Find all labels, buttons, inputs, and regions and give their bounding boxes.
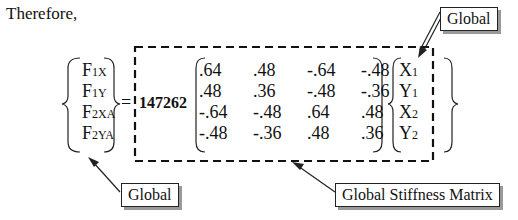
equals-sign: = bbox=[121, 92, 131, 113]
arrow-global-bottom bbox=[88, 157, 99, 167]
force-entry: F2YA bbox=[82, 123, 115, 144]
disp-brace-close bbox=[444, 58, 458, 152]
matrix-row: .64.48-.64-.48 bbox=[199, 60, 415, 81]
left-brace-open bbox=[62, 58, 80, 152]
disp-entry: Y2 bbox=[399, 123, 418, 144]
force-entry: F2XA bbox=[82, 102, 115, 123]
callout-global-top: Global bbox=[440, 7, 498, 31]
disp-entry: X1 bbox=[399, 60, 418, 81]
force-entry: F1Y bbox=[82, 81, 115, 102]
force-vector: F1X F1Y F2XA F2YA bbox=[82, 60, 115, 144]
stiffness-matrix: .64.48-.64-.48 .48.36-.48-.36 -.64-.48.6… bbox=[199, 60, 415, 144]
matrix-row: -.48-.36.48.36 bbox=[199, 123, 415, 144]
scalar-factor: 147262 bbox=[139, 94, 187, 112]
force-entry: F1X bbox=[82, 60, 115, 81]
callout-global-bottom: Global bbox=[121, 183, 179, 207]
callout-global-stiffness-matrix: Global Stiffness Matrix bbox=[335, 183, 500, 207]
disp-entry: X2 bbox=[399, 102, 418, 123]
matrix-row: -.64-.48.64.48 bbox=[199, 102, 415, 123]
disp-entry: Y1 bbox=[399, 81, 418, 102]
matrix-row: .48.36-.48-.36 bbox=[199, 81, 415, 102]
displacement-vector: X1 Y1 X2 Y2 bbox=[399, 60, 418, 144]
figure: Therefore, F1X F1Y F2XA F2YA = 147262 .6… bbox=[0, 0, 518, 220]
